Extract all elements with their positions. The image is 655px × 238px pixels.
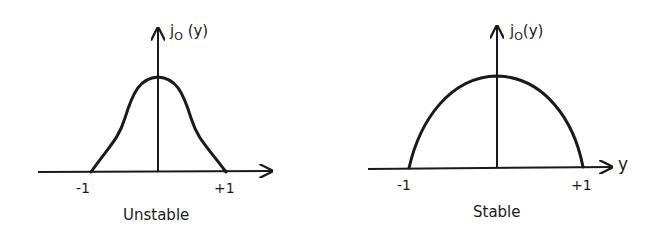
stable-x-axis-label: y	[618, 154, 628, 174]
stable-y-axis-label: jO(y)	[510, 22, 543, 43]
unstable-tick-minus-one: -1	[76, 180, 90, 196]
stable-x-axis	[368, 167, 612, 169]
unstable-panel	[38, 28, 272, 172]
stable-caption: Stable	[473, 203, 521, 221]
unstable-tick-plus-one: +1	[214, 180, 235, 196]
stable-tick-plus-one: +1	[571, 177, 592, 193]
stable-tick-minus-one: -1	[397, 177, 411, 193]
diagram-canvas	[0, 0, 655, 238]
unstable-x-axis	[38, 171, 272, 172]
unstable-y-axis-label: jO (y)	[170, 22, 208, 43]
unstable-caption: Unstable	[123, 206, 189, 224]
stable-panel	[368, 26, 612, 169]
